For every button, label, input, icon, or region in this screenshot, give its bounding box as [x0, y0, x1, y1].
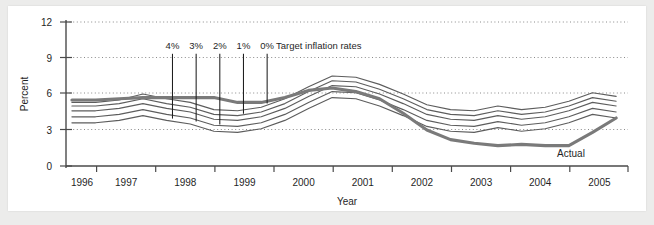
target-label-4pct: 4%	[166, 40, 180, 51]
x-tick-label-1999: 1999	[233, 177, 256, 188]
y-axis: 12 9 6 3 0 Percent	[19, 17, 72, 172]
target-label-2pct: 2%	[213, 40, 227, 51]
y-tick-label-12: 12	[41, 17, 53, 28]
inflation-target-line-chart: 12 9 6 3 0 Percent 1996	[8, 6, 646, 211]
x-axis: 1996 1997 1998 1999 2000 2001 2002 2003 …	[66, 166, 628, 207]
x-tick-label-1996: 1996	[71, 177, 94, 188]
y-tick-label-3: 3	[46, 125, 52, 136]
series-line-4	[72, 98, 616, 133]
y-tick-label-0: 0	[46, 161, 52, 172]
chart-card: 12 9 6 3 0 Percent 1996	[8, 6, 646, 211]
x-tick-label-2002: 2002	[411, 177, 434, 188]
target-label-0pct: 0%	[260, 40, 274, 51]
x-tick-label-2004: 2004	[529, 177, 552, 188]
target-label-1pct: 1%	[237, 40, 251, 51]
y-axis-title: Percent	[19, 77, 30, 112]
x-tick-label-1998: 1998	[174, 177, 197, 188]
x-tick-label-2005: 2005	[588, 177, 611, 188]
screenshot-root: 12 9 6 3 0 Percent 1996	[0, 0, 654, 225]
x-tick-label-2001: 2001	[352, 177, 375, 188]
series-group	[72, 76, 616, 146]
x-axis-title: Year	[337, 196, 358, 207]
actual-series-label: Actual	[557, 148, 585, 159]
y-tick-label-6: 6	[46, 88, 52, 99]
target-label-3pct: 3%	[189, 40, 203, 51]
target-inflation-rates-label: Target inflation rates	[276, 40, 362, 51]
y-tick-label-9: 9	[46, 53, 52, 64]
series-line-5	[72, 88, 616, 146]
x-tick-label-2000: 2000	[292, 177, 315, 188]
x-tick-label-1997: 1997	[115, 177, 138, 188]
gridlines	[66, 22, 628, 130]
x-tick-label-2003: 2003	[470, 177, 493, 188]
